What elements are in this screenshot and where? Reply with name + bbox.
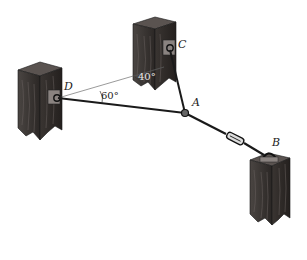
angle-60-label: 60° [101,90,119,101]
angle-40-label: 40° [138,71,156,82]
label-c: C [178,38,187,51]
label-b: B [271,136,280,149]
label-a: A [191,96,200,109]
label-layer: D C A B 60° 40° [0,0,307,260]
label-d: D [63,80,73,93]
